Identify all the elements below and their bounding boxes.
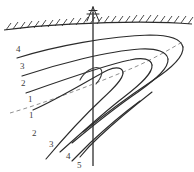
- diagram-canvas: 4 3 2 1 1 2 3 4 5: [0, 0, 194, 172]
- contour-label-lower-4: 4: [66, 151, 71, 161]
- ground-surface-hatched-line: [4, 15, 193, 30]
- contour-label-lower-3: 3: [49, 139, 54, 149]
- contour-label-upper-2: 2: [21, 78, 26, 88]
- contour-label-upper-4: 4: [16, 44, 21, 54]
- contour-label-lower-2: 2: [32, 128, 37, 138]
- inner-loop-curve: [80, 68, 102, 84]
- contour-label-lower-5: 5: [77, 160, 82, 170]
- contour-label-upper-1: 1: [28, 94, 33, 104]
- contour-curve-4: [17, 35, 183, 132]
- contour-label-upper-3: 3: [20, 61, 25, 71]
- contour-curve-2: [26, 59, 152, 152]
- contour-label-lower-1: 1: [29, 110, 34, 120]
